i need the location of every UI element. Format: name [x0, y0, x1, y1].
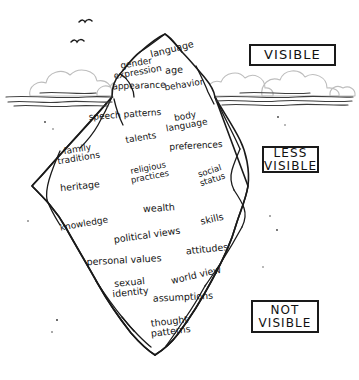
speckle — [52, 128, 53, 129]
speckle — [262, 266, 263, 267]
water-ripple-2 — [216, 100, 352, 101]
speckle — [284, 124, 285, 125]
speckle — [269, 215, 271, 217]
iceberg-diagram: VISIBLE LESS VISIBLE NOT VISIBLE languag… — [0, 0, 359, 380]
legend-not-visible-line-1: NOT — [270, 304, 299, 316]
water-ripple-5 — [40, 92, 96, 93]
iceberg-label-age: age — [165, 65, 183, 75]
legend-less-visible: LESS VISIBLE — [262, 146, 319, 173]
speckle — [56, 319, 58, 321]
speckle — [44, 121, 46, 123]
iceberg-label-wealth: wealth — [143, 202, 175, 214]
legend-not-visible: NOT VISIBLE — [251, 300, 319, 333]
water-ripple-1 — [8, 101, 112, 102]
waterline-main — [6, 96, 113, 97]
cloud-left — [30, 70, 112, 96]
iceberg-label-appearance: appearance — [112, 81, 166, 92]
legend-visible-line-1: VISIBLE — [264, 48, 321, 61]
iceberg-label-age-line-1: age — [165, 65, 183, 75]
water-ripple-4 — [222, 104, 348, 105]
legend-less-visible-line-2: VISIBLE — [264, 160, 317, 172]
water-ripple-6 — [240, 92, 310, 93]
legend-less-visible-line-1: LESS — [274, 147, 308, 159]
iceberg-label-wealth-line-1: wealth — [143, 202, 175, 214]
bird-icon-1 — [79, 20, 92, 22]
water-ripple-3 — [14, 105, 108, 106]
bird-icon-2 — [71, 40, 84, 42]
speckle — [51, 331, 53, 333]
legend-not-visible-line-2: VISIBLE — [258, 317, 311, 329]
speckle — [27, 220, 29, 222]
speckle — [277, 116, 279, 118]
speckle — [276, 229, 278, 231]
cloud-far-right — [330, 86, 355, 96]
legend-visible: VISIBLE — [249, 44, 336, 66]
birds-group — [71, 20, 92, 42]
iceberg-label-sexual-identity: sexualidentity — [111, 276, 149, 299]
iceberg-label-appearance-line-1: appearance — [112, 81, 166, 92]
